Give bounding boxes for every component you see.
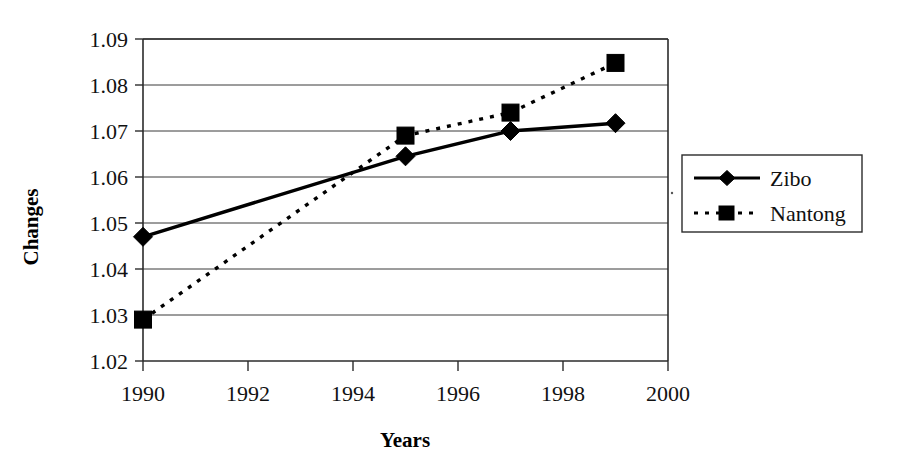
x-axis-title: Years: [380, 428, 430, 452]
y-tick-label-1-07: 1.07: [90, 119, 129, 144]
y-tick-label-1-06: 1.06: [90, 165, 129, 190]
x-tickmarks: [143, 361, 668, 371]
legend: Zibo Nantong: [682, 155, 862, 232]
y-tick-labels: 1.09 1.08 1.07 1.06 1.05 1.04 1.03 1.02: [90, 27, 129, 374]
x-tick-label-1996: 1996: [436, 381, 480, 406]
y-tick-label-1-08: 1.08: [90, 73, 129, 98]
scan-speck: [671, 192, 673, 194]
square-marker: [502, 104, 519, 121]
x-tick-label-1992: 1992: [226, 381, 270, 406]
line-chart: 1.09 1.08 1.07 1.06 1.05 1.04 1.03 1.02 …: [0, 0, 906, 463]
y-tick-label-1-05: 1.05: [90, 211, 129, 236]
plot-background: [143, 39, 668, 361]
square-marker: [135, 311, 152, 328]
y-axis-title: Changes: [19, 188, 43, 265]
legend-label-nantong: Nantong: [770, 201, 846, 226]
x-tick-labels: 1990 1992 1994 1996 1998 2000: [121, 381, 690, 406]
x-tick-label-1994: 1994: [331, 381, 375, 406]
square-marker: [397, 127, 414, 144]
x-tick-label-1990: 1990: [121, 381, 165, 406]
y-tick-label-1-03: 1.03: [90, 303, 129, 328]
y-tick-label-1-02: 1.02: [90, 349, 129, 374]
legend-label-zibo: Zibo: [770, 166, 812, 191]
y-tick-label-1-04: 1.04: [90, 257, 129, 282]
square-marker-icon: [719, 206, 734, 220]
x-tick-label-2000: 2000: [646, 381, 690, 406]
y-tick-label-1-09: 1.09: [90, 27, 129, 52]
chart-canvas: 1.09 1.08 1.07 1.06 1.05 1.04 1.03 1.02 …: [0, 0, 906, 463]
square-marker: [607, 54, 624, 71]
x-tick-label-1998: 1998: [541, 381, 585, 406]
